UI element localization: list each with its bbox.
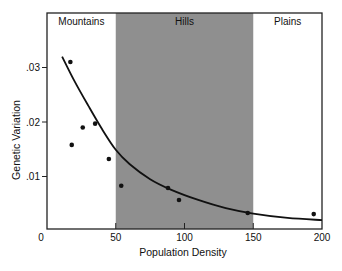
y-tick-label: .01 xyxy=(26,171,40,182)
data-point xyxy=(119,183,124,188)
x-tick-label: 50 xyxy=(110,232,122,243)
y-tick-label: .02 xyxy=(26,117,40,128)
y-tick-label: .03 xyxy=(26,62,40,73)
region-label-plains: Plains xyxy=(274,16,301,27)
x-tick-label: 150 xyxy=(245,232,262,243)
x-axis-label: Population Density xyxy=(139,246,227,258)
region-hills xyxy=(116,13,254,229)
data-point xyxy=(80,125,85,130)
chart-container: 050100150200.01.02.03 MountainsHillsPlai… xyxy=(0,0,342,271)
data-point xyxy=(107,157,112,162)
region-labels: MountainsHillsPlains xyxy=(58,16,301,27)
data-point xyxy=(177,198,182,203)
data-point xyxy=(245,211,250,216)
data-point xyxy=(311,212,316,217)
y-axis-label: Genetic Variation xyxy=(10,100,22,180)
data-point xyxy=(93,121,98,126)
x-tick-label: 0 xyxy=(38,232,44,243)
region-label-hills: Hills xyxy=(175,16,194,27)
region-label-mountains: Mountains xyxy=(58,16,104,27)
data-point xyxy=(166,186,171,191)
data-point xyxy=(68,60,73,65)
x-tick-label: 100 xyxy=(176,232,193,243)
x-tick-label: 200 xyxy=(314,232,331,243)
data-point xyxy=(69,143,74,148)
chart-svg: 050100150200.01.02.03 MountainsHillsPlai… xyxy=(0,0,342,271)
regions-layer xyxy=(116,13,254,229)
